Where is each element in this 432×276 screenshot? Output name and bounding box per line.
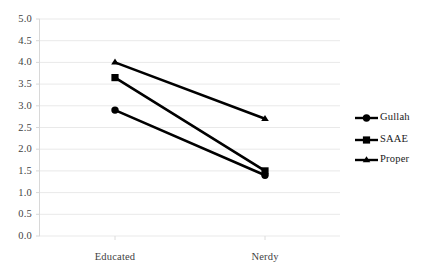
ytick-label-3-0: 3.0 bbox=[2, 100, 32, 111]
marker-square-saae-educated bbox=[111, 74, 118, 81]
marker-triangle-proper-educated bbox=[111, 59, 119, 65]
ytick-label-4-5: 4.5 bbox=[2, 35, 32, 46]
marker-circle-gullah-educated bbox=[111, 106, 118, 113]
ytick-label-2-5: 2.5 bbox=[2, 122, 32, 133]
marker-circle-gullah-nerdy bbox=[261, 172, 268, 179]
y-axis bbox=[36, 19, 40, 236]
legend-label-saae: SAAE bbox=[380, 133, 408, 144]
legend-marker-square-saae bbox=[363, 136, 370, 143]
xtick-label-educated: Educated bbox=[60, 251, 170, 262]
series-line-gullah bbox=[115, 110, 265, 175]
legend-label-gullah: Gullah bbox=[380, 111, 410, 122]
legend-markers bbox=[355, 114, 378, 162]
ytick-label-1-0: 1.0 bbox=[2, 187, 32, 198]
xtick-label-nerdy: Nerdy bbox=[210, 251, 320, 262]
legend-label-proper: Proper bbox=[380, 153, 409, 164]
ytick-label-1-5: 1.5 bbox=[2, 165, 32, 176]
gridlines bbox=[40, 19, 340, 236]
x-axis bbox=[115, 236, 265, 240]
ytick-label-0-0: 0.0 bbox=[2, 230, 32, 241]
series-gullah bbox=[111, 106, 268, 178]
plot-area bbox=[0, 0, 432, 276]
series-saae bbox=[111, 74, 268, 175]
ytick-label-0-5: 0.5 bbox=[2, 208, 32, 219]
ytick-label-2-0: 2.0 bbox=[2, 143, 32, 154]
legend-marker-circle-gullah bbox=[363, 114, 370, 121]
line-chart: 5.0 4.5 4.0 3.5 3.0 2.5 2.0 1.5 1.0 0.5 … bbox=[0, 0, 432, 276]
ytick-label-5-0: 5.0 bbox=[2, 13, 32, 24]
ytick-label-3-5: 3.5 bbox=[2, 78, 32, 89]
ytick-label-4-0: 4.0 bbox=[2, 56, 32, 67]
